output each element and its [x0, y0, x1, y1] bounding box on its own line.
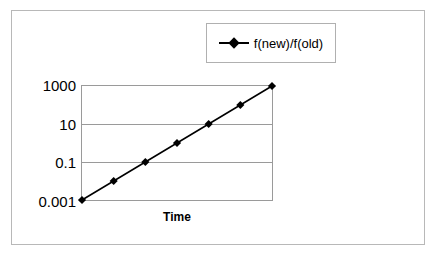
series-plot	[82, 86, 272, 200]
data-point-marker	[236, 101, 244, 109]
y-axis-tick-label-0.1: 0.1	[12, 155, 76, 170]
data-point-marker	[78, 196, 86, 204]
y-axis-tick-labels: 1000 10 0.1 0.001	[12, 85, 76, 201]
y-axis-tick-label-10: 10	[12, 116, 76, 131]
y-axis-tick-label-0.001: 0.001	[12, 194, 76, 209]
chart-figure: f(new)/f(old) 1000 10 0.1 0.001 Time	[11, 10, 425, 245]
y-axis-tick-label-1000: 1000	[12, 78, 76, 93]
data-point-marker	[110, 177, 118, 185]
data-point-marker	[141, 158, 149, 166]
legend-line-diamond-marker-icon	[219, 37, 249, 49]
data-point-marker	[173, 139, 181, 147]
legend-entry-label: f(new)/f(old)	[254, 37, 323, 50]
legend-entry-f-new-f-old: f(new)/f(old)	[219, 37, 323, 50]
data-point-marker	[205, 120, 213, 128]
chart-legend: f(new)/f(old)	[206, 23, 336, 63]
x-axis-title: Time	[81, 210, 273, 224]
data-point-marker	[268, 82, 276, 90]
plot-area	[81, 85, 273, 201]
series-markers	[78, 82, 276, 204]
